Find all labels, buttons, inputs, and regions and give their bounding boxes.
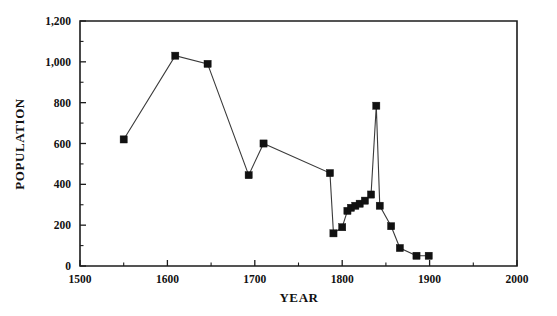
x-tick-label: 1900	[418, 273, 441, 285]
data-point-marker	[388, 223, 395, 230]
x-tick-label: 1500	[69, 273, 92, 285]
x-tick-label: 1600	[156, 273, 179, 285]
data-point-marker	[373, 102, 380, 109]
y-tick-label: 0	[65, 260, 71, 272]
data-point-marker	[339, 224, 346, 231]
x-tick-label: 1700	[243, 273, 266, 285]
data-point-marker	[326, 170, 333, 177]
x-axis-title: YEAR	[279, 290, 318, 305]
y-axis-title: POPULATION	[12, 98, 27, 190]
chart-svg: 02004006008001,0001,200 1500160017001800…	[0, 0, 557, 316]
population-year-chart: 02004006008001,0001,200 1500160017001800…	[0, 0, 557, 316]
data-point-marker	[425, 252, 432, 259]
data-point-marker	[367, 191, 374, 198]
y-tick-label: 200	[54, 219, 72, 231]
data-point-marker	[204, 60, 211, 67]
y-tick-label: 1,000	[45, 56, 71, 68]
x-tick-label: 2000	[506, 273, 529, 285]
data-point-marker	[172, 52, 179, 59]
y-tick-label: 400	[54, 178, 72, 190]
data-point-marker	[245, 172, 252, 179]
chart-background	[0, 0, 557, 316]
data-point-marker	[396, 244, 403, 251]
x-tick-label: 1800	[331, 273, 354, 285]
data-point-marker	[330, 230, 337, 237]
y-tick-label: 1,200	[45, 15, 71, 27]
data-point-marker	[120, 136, 127, 143]
data-point-marker	[376, 202, 383, 209]
data-point-marker	[260, 140, 267, 147]
y-tick-label: 600	[54, 138, 72, 150]
data-point-marker	[413, 252, 420, 259]
y-tick-label: 800	[54, 97, 72, 109]
